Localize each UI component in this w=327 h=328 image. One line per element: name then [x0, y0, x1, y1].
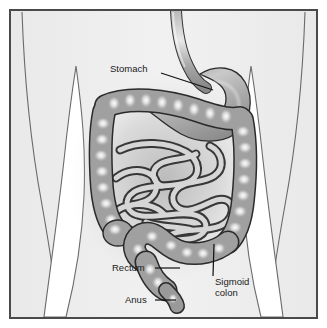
stomach-label-line-0: Stomach — [110, 63, 148, 74]
anus-label: Anus — [125, 294, 147, 305]
anatomy-illustration: StomachRectumAnusSigmoidcolon — [0, 0, 327, 328]
anus — [166, 290, 178, 306]
rectum-label-line-0: Rectum — [112, 262, 145, 273]
figure-root: StomachRectumAnusSigmoidcolon Stomach Re… — [0, 0, 327, 328]
anus-label-line-0: Anus — [125, 294, 147, 305]
rectum-label: Rectum — [112, 262, 145, 273]
stomach-label: Stomach — [110, 63, 148, 74]
sigmoid-colon-label-line-0: Sigmoid — [215, 276, 249, 287]
sigmoid-colon-label-line-1: colon — [215, 287, 238, 298]
